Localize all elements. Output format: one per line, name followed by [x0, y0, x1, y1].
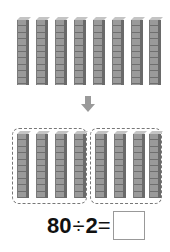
- ten-rod: [74, 20, 83, 85]
- ten-rod: [55, 20, 64, 85]
- dividend: 80: [47, 213, 71, 239]
- ten-rod: [93, 20, 102, 85]
- ten-rod: [149, 20, 158, 85]
- ten-rod: [112, 20, 121, 85]
- ten-rod: [74, 134, 83, 198]
- equals-sign: =: [98, 213, 111, 239]
- ten-rod: [17, 134, 26, 198]
- ten-rod: [36, 134, 45, 198]
- division-operator: ÷: [72, 213, 84, 239]
- answer-box[interactable]: [113, 211, 145, 240]
- ten-rod: [95, 134, 104, 198]
- ten-rod: [149, 134, 158, 198]
- divisor: 2: [86, 213, 98, 239]
- ten-rod: [131, 20, 140, 85]
- ten-rod: [36, 20, 45, 85]
- ten-rod: [114, 134, 123, 198]
- down-arrow-icon: [81, 96, 95, 113]
- ten-rod: [55, 134, 64, 198]
- division-equation: 80 ÷ 2 =: [47, 211, 145, 240]
- ten-rod: [17, 20, 26, 85]
- ten-rod: [133, 134, 142, 198]
